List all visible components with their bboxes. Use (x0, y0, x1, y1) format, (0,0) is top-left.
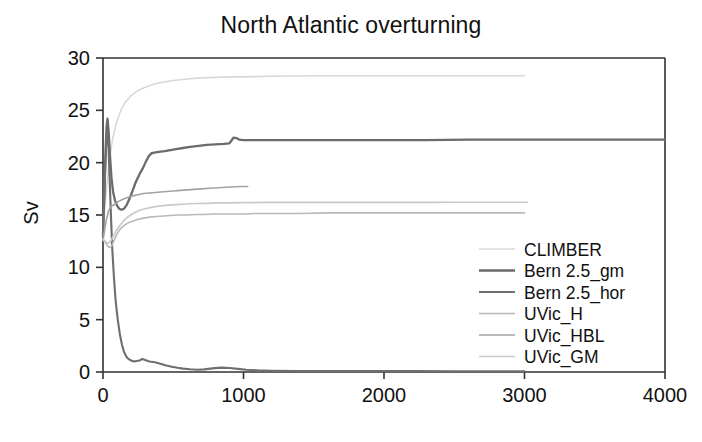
y-tick-label: 20 (68, 152, 90, 174)
y-tick-label: 5 (79, 309, 90, 331)
legend-label-bern-2-5-gm: Bern 2.5_gm (524, 261, 624, 282)
plot-area: 051015202530 01000200030004000 Sv CLIMBE… (0, 0, 702, 442)
series-line-bern-2-5-gm (103, 119, 665, 236)
series-line-uvic-gm (103, 202, 527, 243)
y-tick-label: 15 (68, 204, 90, 226)
x-tick-label: 0 (97, 384, 108, 406)
y-axis-title: Sv (20, 201, 42, 224)
legend-label-bern-2-5-hor: Bern 2.5_hor (524, 283, 625, 304)
y-tick-label: 25 (68, 99, 90, 121)
legend-label-uvic-gm: UVic_GM (524, 347, 599, 368)
x-tick-label: 3000 (502, 384, 547, 406)
series-line-uvic-h (103, 213, 525, 248)
series-line-bern-2-5-hor (103, 131, 525, 371)
chart-legend: CLIMBERBern 2.5_gmBern 2.5_horUVic_HUVic… (479, 240, 625, 369)
y-tick-label: 30 (68, 47, 90, 69)
y-axis-ticks: 051015202530 (68, 47, 103, 383)
x-tick-label: 2000 (362, 384, 407, 406)
chart-figure: North Atlantic overturning 051015202530 … (0, 0, 702, 442)
x-axis-ticks: 01000200030004000 (97, 372, 687, 406)
x-tick-label: 4000 (643, 384, 688, 406)
legend-label-uvic-hbl: UVic_HBL (524, 326, 605, 347)
y-tick-label: 0 (79, 361, 90, 383)
legend-label-climber: CLIMBER (524, 240, 602, 260)
y-tick-label: 10 (68, 256, 90, 278)
x-tick-label: 1000 (221, 384, 266, 406)
legend-label-uvic-h: UVic_H (524, 304, 583, 325)
